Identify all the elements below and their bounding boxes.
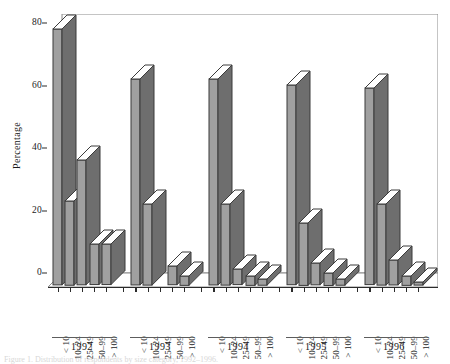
year-rule bbox=[130, 337, 190, 338]
year-label: 1992 bbox=[52, 341, 112, 353]
bar bbox=[77, 162, 86, 287]
bar-3d bbox=[180, 262, 205, 287]
y-tick-mark bbox=[42, 85, 47, 86]
bar bbox=[65, 203, 74, 287]
bar bbox=[389, 262, 398, 287]
bar bbox=[102, 246, 111, 287]
bar bbox=[143, 206, 152, 287]
y-tick-label: 60 bbox=[32, 81, 42, 91]
year-rule bbox=[364, 337, 424, 338]
year-label: 1995 bbox=[286, 341, 346, 353]
bar bbox=[299, 225, 308, 287]
bar bbox=[131, 81, 140, 287]
bar bbox=[246, 278, 255, 287]
figure-container: Percentage 020406080 < 1010–2425–4950–99… bbox=[0, 0, 450, 364]
y-tick-mark bbox=[42, 210, 47, 211]
year-rule bbox=[52, 337, 112, 338]
bar bbox=[324, 275, 333, 287]
y-axis: Percentage 020406080 bbox=[0, 0, 48, 287]
bar-3d bbox=[336, 265, 361, 287]
bar bbox=[365, 90, 374, 287]
bar bbox=[377, 206, 386, 287]
bar-groups bbox=[48, 14, 438, 287]
bar-3d bbox=[143, 190, 168, 287]
bar bbox=[311, 265, 320, 287]
bar bbox=[402, 278, 411, 287]
year-label: 1993 bbox=[130, 341, 190, 353]
plot-area bbox=[48, 14, 438, 287]
year-rule bbox=[286, 337, 346, 338]
bar-3d bbox=[414, 268, 439, 287]
y-tick-mark bbox=[42, 23, 47, 24]
bar bbox=[233, 271, 242, 287]
y-axis-title: Percentage bbox=[11, 86, 22, 206]
figure-caption: Figure 1. Distribution of respondents by… bbox=[4, 355, 444, 364]
y-tick-mark bbox=[42, 273, 47, 274]
y-tick-mark bbox=[42, 148, 47, 149]
y-tick-label: 40 bbox=[32, 143, 42, 153]
year-rule bbox=[208, 337, 268, 338]
category-labels: < 1010–2425–4950–99> 100< 1010–2425–4950… bbox=[48, 292, 438, 338]
bar-3d bbox=[258, 265, 283, 287]
bar-3d bbox=[102, 230, 127, 287]
year-label: 1994 bbox=[208, 341, 268, 353]
bar bbox=[180, 278, 189, 287]
year-rules bbox=[48, 337, 438, 339]
bar bbox=[221, 206, 230, 287]
y-tick-label: 80 bbox=[32, 19, 42, 29]
bar bbox=[168, 268, 177, 287]
bar bbox=[287, 87, 296, 287]
bar bbox=[90, 246, 99, 287]
bar bbox=[209, 81, 218, 287]
bar bbox=[53, 31, 62, 287]
y-tick-label: 20 bbox=[32, 206, 42, 216]
year-label: 1996 bbox=[364, 341, 424, 353]
